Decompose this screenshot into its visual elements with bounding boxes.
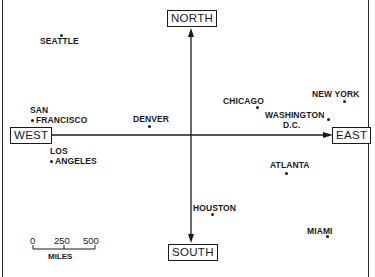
city-label: WASHINGTON [265, 111, 324, 120]
city-label: HOUSTON [193, 204, 236, 213]
city-label: CHICAGO [223, 97, 264, 106]
arrow-south-icon [188, 234, 194, 243]
city-dot-icon [327, 118, 330, 121]
city-label: DENVER [133, 115, 169, 124]
city-dot-icon [326, 235, 329, 238]
arrow-north-icon [188, 28, 194, 37]
scale-unit-label: MILES [48, 252, 72, 261]
city-label: D.C. [283, 121, 300, 130]
city-dot-icon [31, 119, 34, 122]
north-label: NORTH [167, 10, 217, 27]
city-label: SEATTLE [40, 37, 79, 46]
west-label: WEST [10, 127, 52, 144]
city-dot-icon [343, 100, 346, 103]
city-dot-icon [148, 125, 151, 128]
city-dot-icon [256, 106, 259, 109]
scale-tick-0: 0 [30, 235, 35, 246]
city-dot-icon [211, 213, 214, 216]
city-label: ATLANTA [270, 161, 310, 170]
city-label: FRANCISCO [36, 116, 87, 125]
city-label: LOS [50, 147, 68, 156]
city-dot-icon [285, 172, 288, 175]
city-label: ANGELES [55, 157, 97, 166]
city-label: NEW YORK [312, 90, 359, 99]
scale-tick-500: 500 [83, 235, 99, 246]
scale-tick-250: 250 [54, 235, 70, 246]
east-label: EAST [332, 127, 371, 144]
south-label: SOUTH [168, 244, 218, 261]
city-dot-icon [50, 160, 53, 163]
city-label: SAN [30, 106, 48, 115]
